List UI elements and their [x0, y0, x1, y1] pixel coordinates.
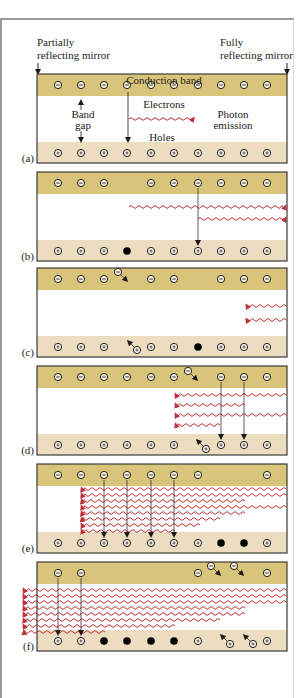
- conduction-band: [37, 172, 287, 194]
- conduction-band: [37, 268, 287, 290]
- panel-b: (b): [21, 172, 287, 263]
- band-gap-label-line2: gap: [75, 119, 91, 131]
- valence-band: [37, 434, 287, 455]
- filled-hole-icon: [217, 539, 225, 547]
- photon-label-line2: emission: [213, 119, 253, 131]
- conduction-band: [37, 562, 287, 584]
- panel-e: (e): [22, 464, 287, 555]
- panel-label: (c): [22, 346, 35, 359]
- panel-c: (c): [22, 268, 287, 359]
- filled-hole-icon: [100, 637, 108, 645]
- filled-hole-icon: [240, 539, 248, 547]
- filled-hole-icon: [170, 637, 178, 645]
- panel-label: (d): [21, 444, 34, 457]
- right-mirror-label-line2: reflecting mirror: [220, 49, 293, 61]
- conduction-band-label: Conduction band: [126, 74, 202, 86]
- valence-band: [37, 240, 287, 261]
- filled-hole-icon: [123, 637, 131, 645]
- filled-hole-icon: [123, 247, 131, 255]
- panel-d: (d): [21, 366, 287, 457]
- right-mirror-label-line1: Fully: [220, 36, 244, 48]
- left-mirror-label-line1: Partially: [37, 36, 75, 48]
- valence-band: [37, 532, 287, 553]
- panel-f: (f): [23, 562, 287, 653]
- panels: (a)(b)(c)(d)(e)(f): [21, 74, 287, 653]
- left-mirror-label-line2: reflecting mirror: [37, 49, 110, 61]
- valence-band: [37, 142, 287, 163]
- valence-band: [37, 336, 287, 357]
- panel-label: (b): [21, 250, 34, 263]
- panel-label: (e): [22, 542, 35, 555]
- electrons-label: Electrons: [143, 98, 185, 110]
- holes-label: Holes: [149, 131, 175, 143]
- panel-label: (f): [23, 640, 34, 653]
- mirror-labels: Partially reflecting mirror Fully reflec…: [37, 36, 293, 72]
- filled-hole-icon: [194, 343, 202, 351]
- filled-hole-icon: [147, 637, 155, 645]
- conduction-band: [37, 464, 287, 486]
- conduction-band: [37, 366, 287, 388]
- panel-label: (a): [22, 152, 35, 165]
